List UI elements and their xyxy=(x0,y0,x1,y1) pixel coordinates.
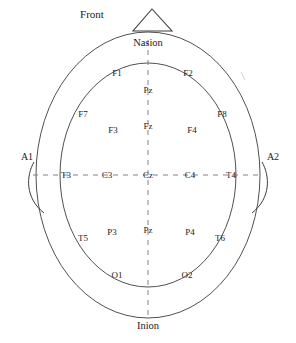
electrode-label-f2: F2 xyxy=(183,69,193,78)
electrode-label-pz: Pz xyxy=(144,226,153,235)
electrode-label-p4: P4 xyxy=(185,228,195,237)
electrode-label-t6: T6 xyxy=(215,234,225,243)
front-orientation-label: Front xyxy=(80,9,104,20)
electrode-label-t5: T5 xyxy=(78,234,88,243)
electrode-label-f4: F4 xyxy=(187,126,197,135)
right-upper-tick-mark xyxy=(241,72,245,80)
electrode-label-f8: F8 xyxy=(217,110,227,119)
electrode-label-c3: C3 xyxy=(102,171,113,180)
nasion-label: Nasion xyxy=(133,38,163,49)
electrode-label-midline-frontal-lower: Fz xyxy=(144,122,153,131)
electrode-label-c4: C4 xyxy=(185,171,196,180)
electrode-label-t4: T4 xyxy=(226,171,236,180)
electrode-label-a1: A1 xyxy=(21,152,33,162)
nose-triangle-icon xyxy=(133,9,172,31)
electrode-label-o2: O2 xyxy=(182,271,193,280)
eeg-electrode-placement-diagram: Front Nasion Inion A1 A2 F1 F2 F7 F8 F3 … xyxy=(0,0,296,343)
electrode-label-f7: F7 xyxy=(78,110,88,119)
electrode-label-f3: F3 xyxy=(108,126,118,135)
electrode-label-cz: Cz xyxy=(143,171,153,180)
electrode-label-p3: P3 xyxy=(107,228,117,237)
electrode-label-a2: A2 xyxy=(267,152,279,162)
inion-label: Inion xyxy=(137,321,159,332)
electrode-label-t3: T3 xyxy=(61,171,71,180)
electrode-label-f1: F1 xyxy=(112,69,122,78)
electrode-label-o1: O1 xyxy=(112,271,123,280)
electrode-label-midline-frontal-upper: Pz xyxy=(144,86,153,95)
